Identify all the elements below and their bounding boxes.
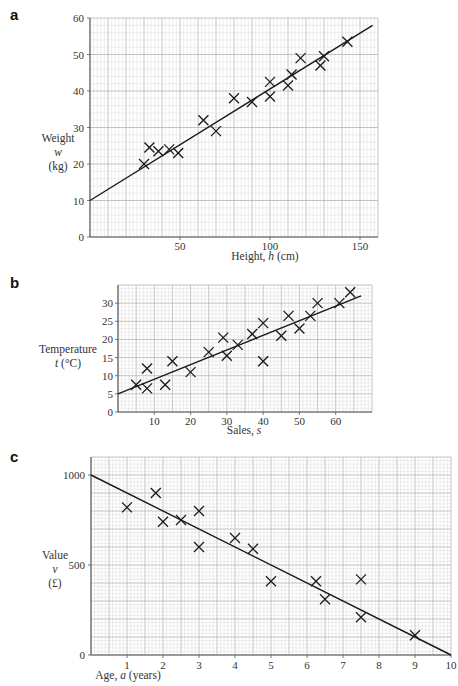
chart-a-weight-vs-height: 501001500102030405060: [73, 12, 378, 252]
grid: [91, 457, 451, 655]
y-tick-label: 60: [73, 12, 85, 24]
y-tick-label: 30: [102, 297, 114, 309]
y-tick-label: 0: [80, 649, 86, 661]
x-tick-label: 4: [232, 659, 238, 671]
chart-a-ylabel-3: (kg): [48, 160, 67, 173]
chart-c-ylabel-1: Value: [42, 549, 68, 561]
x-tick-label: 10: [446, 659, 458, 671]
y-tick-label: 500: [69, 559, 86, 571]
y-tick-label: 5: [108, 388, 114, 400]
x-tick-label: 9: [412, 659, 418, 671]
y-tick-label: 20: [73, 158, 85, 170]
y-tick-label: 0: [79, 231, 85, 243]
y-tick-label: 20: [102, 333, 114, 345]
grid: [90, 18, 378, 237]
x-tick-label: 60: [330, 415, 342, 427]
chart-b-ylabel-1: Temperature: [39, 343, 97, 356]
x-tick-label: 10: [149, 415, 161, 427]
chart-b-ylabel-2: t (°C): [55, 357, 81, 370]
charts-canvas: 501001500102030405060 Weight w (kg) Heig…: [0, 0, 458, 686]
x-tick-label: 3: [196, 659, 202, 671]
x-marker-icon: [342, 37, 352, 47]
grid: [118, 285, 372, 412]
x-marker-icon: [311, 576, 321, 586]
x-marker-icon: [144, 143, 154, 153]
chart-b-temperature-vs-sales: 102030405060051015202530: [102, 285, 372, 427]
x-tick-label: 150: [352, 240, 369, 252]
x-tick-label: 5: [268, 659, 274, 671]
y-tick-label: 30: [73, 122, 85, 134]
x-tick-label: 50: [175, 240, 187, 252]
x-tick-label: 50: [294, 415, 306, 427]
x-tick-label: 2: [160, 659, 166, 671]
chart-c-ylabel-2: v: [52, 563, 58, 575]
chart-a-xlabel: Height, h (cm): [231, 250, 299, 263]
x-tick-label: 7: [340, 659, 346, 671]
y-tick-label: 10: [73, 195, 85, 207]
chart-b-xlabel: Sales, s: [227, 424, 262, 437]
x-tick-label: 20: [185, 415, 197, 427]
chart-c-xlabel: Age, a (years): [95, 669, 161, 682]
y-tick-label: 1000: [63, 469, 86, 481]
y-tick-label: 0: [108, 406, 114, 418]
y-tick-label: 15: [102, 352, 114, 364]
x-tick-label: 6: [304, 659, 310, 671]
chart-c-ylabel-3: (£): [48, 577, 62, 590]
chart-c-value-vs-age: 1234567891005001000: [63, 457, 457, 671]
chart-a-ylabel-2: w: [54, 146, 62, 158]
y-tick-label: 40: [73, 85, 85, 97]
y-tick-label: 50: [73, 49, 85, 61]
x-tick-label: 8: [376, 659, 382, 671]
chart-a-ylabel-1: Weight: [42, 132, 76, 145]
y-tick-label: 10: [102, 370, 114, 382]
y-tick-label: 25: [102, 315, 114, 327]
